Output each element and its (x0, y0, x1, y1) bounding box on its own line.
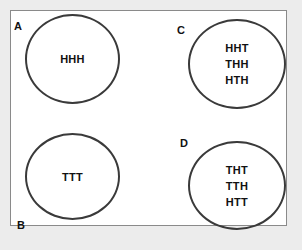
outcome: HTH (225, 72, 249, 88)
outcome: TTH (226, 178, 248, 194)
set-label-a: A (14, 20, 22, 32)
outcome: HTT (226, 194, 248, 210)
set-label-c: C (177, 24, 185, 36)
set-circle-d: THT TTH HTT (188, 141, 286, 230)
set-circle-c: HHT THH HTH (188, 19, 286, 109)
outcome: HHH (60, 51, 85, 67)
set-label-b: B (17, 219, 25, 231)
outcome: HHT (225, 40, 249, 56)
outcome: TTT (62, 169, 83, 185)
outcome: THT (226, 162, 248, 178)
set-circle-b: TTT (25, 133, 120, 220)
set-circle-a: HHH (25, 14, 120, 104)
set-label-d: D (180, 137, 188, 149)
outcome: THH (225, 56, 249, 72)
